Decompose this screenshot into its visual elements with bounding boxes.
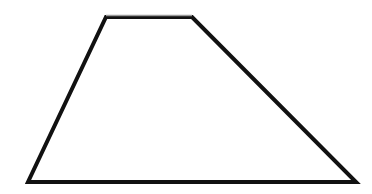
trapezoid-outline (28, 17, 356, 182)
diagram-canvas (0, 0, 372, 194)
trapezoid-figure (0, 0, 372, 194)
